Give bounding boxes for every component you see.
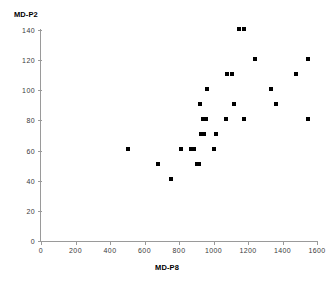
data-point <box>224 117 228 121</box>
x-tick-label: 0 <box>39 247 43 254</box>
data-point <box>306 57 310 61</box>
x-tick-mark <box>214 241 215 245</box>
y-tick-label: 40 <box>26 177 35 184</box>
data-point <box>179 147 183 151</box>
y-tick-mark <box>38 211 42 212</box>
data-point <box>274 102 278 106</box>
x-tick-mark <box>76 241 77 245</box>
data-point <box>225 72 229 76</box>
x-tick-mark <box>179 241 180 245</box>
y-tick-mark <box>38 90 42 91</box>
y-tick-label: 0 <box>31 238 35 245</box>
scatter-chart: MD-P2 0204060801001201400200400600800100… <box>0 0 334 284</box>
data-point <box>230 72 234 76</box>
data-point <box>156 162 160 166</box>
data-point <box>232 102 236 106</box>
data-point <box>169 177 173 181</box>
x-tick-label: 1000 <box>205 247 222 254</box>
data-point <box>242 117 246 121</box>
data-point <box>253 57 257 61</box>
x-tick-label: 600 <box>138 247 151 254</box>
x-tick-mark <box>41 241 42 245</box>
y-tick-label: 60 <box>26 147 35 154</box>
y-tick-label: 140 <box>22 27 35 34</box>
data-point <box>269 87 273 91</box>
y-tick-mark <box>38 120 42 121</box>
x-tick-mark <box>110 241 111 245</box>
x-tick-label: 400 <box>104 247 117 254</box>
data-point <box>202 132 206 136</box>
x-tick-label: 200 <box>69 247 82 254</box>
y-tick-label: 20 <box>26 207 35 214</box>
data-point <box>205 87 209 91</box>
y-tick-mark <box>38 30 42 31</box>
x-tick-mark <box>145 241 146 245</box>
data-point <box>126 147 130 151</box>
y-tick-mark <box>38 181 42 182</box>
x-tick-mark <box>283 241 284 245</box>
data-point <box>212 147 216 151</box>
y-tick-label: 120 <box>22 57 35 64</box>
y-tick-mark <box>38 151 42 152</box>
data-point <box>294 72 298 76</box>
plot-area: 0204060801001201400200400600800100012001… <box>41 30 317 241</box>
x-tick-label: 1600 <box>308 247 325 254</box>
x-tick-mark <box>317 241 318 245</box>
data-point <box>204 117 208 121</box>
y-tick-label: 100 <box>22 87 35 94</box>
data-point <box>306 117 310 121</box>
x-axis-title: MD-P8 <box>0 263 334 272</box>
x-tick-mark <box>248 241 249 245</box>
y-tick-label: 80 <box>26 117 35 124</box>
data-point <box>242 27 246 31</box>
x-tick-label: 800 <box>173 247 186 254</box>
x-tick-label: 1400 <box>274 247 291 254</box>
y-axis-title: MD-P2 <box>14 10 38 19</box>
data-point <box>197 162 201 166</box>
data-point <box>214 132 218 136</box>
y-tick-mark <box>38 60 42 61</box>
data-point <box>198 102 202 106</box>
x-tick-label: 1200 <box>239 247 256 254</box>
data-point <box>192 147 196 151</box>
